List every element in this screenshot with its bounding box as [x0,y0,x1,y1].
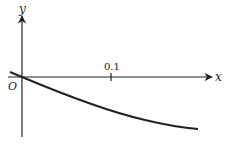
x-tick-label: 0.1 [104,61,120,72]
x-axis-label: x [215,70,222,84]
function-curve [10,72,198,129]
origin-label: O [8,80,17,93]
y-axis-label: y [18,2,26,16]
graph-canvas: y x O 0.1 [0,0,225,149]
